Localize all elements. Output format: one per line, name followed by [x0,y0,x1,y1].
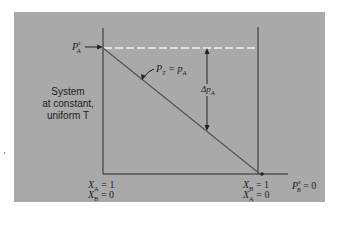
psb-label: PsB = 0 [292,180,316,194]
psa-label: PsA [72,41,81,55]
curve-label: PT = pA [156,64,186,77]
psa-arrow-head [97,45,103,50]
left-bottom-xb: XB = 0 [88,190,114,203]
right-bottom-xa: XA = 0 [243,190,269,203]
system-label: System at constant, uniform T [36,86,100,122]
end-point-marker [260,172,264,176]
stray-mark [4,152,5,154]
delta-arrow-top-head [205,48,210,54]
delta-pa-label: ΔpA [201,85,215,96]
